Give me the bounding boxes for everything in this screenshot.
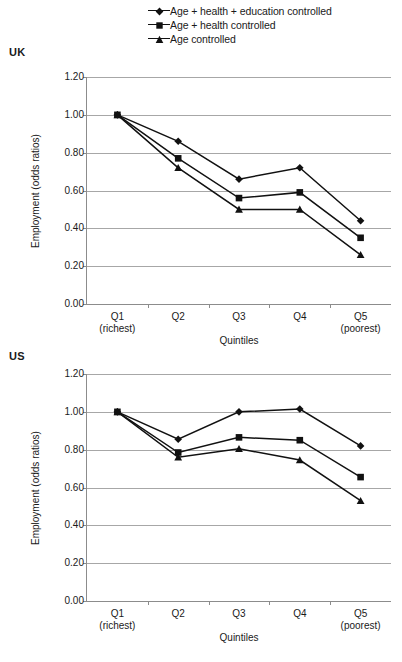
y-tick-label: 0.60 bbox=[24, 483, 84, 493]
series-line bbox=[117, 115, 360, 221]
x-tick-label: Q2 bbox=[143, 311, 213, 323]
x-tick-label: Q5(poorest) bbox=[326, 608, 396, 632]
x-tick-label: Q4 bbox=[265, 608, 335, 620]
x-tick-label: Q4 bbox=[265, 311, 335, 323]
x-tick-main: Q5 bbox=[354, 311, 367, 322]
x-tick-main: Q3 bbox=[232, 608, 245, 619]
y-tick-label: 0.00 bbox=[24, 299, 84, 309]
x-axis-title: Quintiles bbox=[87, 632, 391, 643]
x-tick-mark bbox=[209, 304, 210, 308]
square-marker bbox=[297, 437, 304, 444]
x-tick-mark bbox=[330, 304, 331, 308]
legend-item-age-health-education: Age + health + education controlled bbox=[148, 4, 398, 17]
y-tick-label: 0.80 bbox=[24, 148, 84, 158]
series-square bbox=[114, 409, 364, 481]
diamond-marker bbox=[357, 442, 365, 450]
y-tick-label: 0.40 bbox=[24, 520, 84, 530]
x-tick-label: Q5(poorest) bbox=[326, 311, 396, 335]
x-tick-main: Q2 bbox=[172, 311, 185, 322]
diamond-marker-icon bbox=[148, 5, 170, 17]
diamond-marker bbox=[235, 175, 243, 183]
square-marker bbox=[236, 434, 243, 441]
x-axis-title: Quintiles bbox=[87, 335, 391, 346]
x-tick-main: Q4 bbox=[293, 608, 306, 619]
x-tick-mark bbox=[269, 601, 270, 605]
x-tick-main: Q1 bbox=[111, 608, 124, 619]
x-tick-main: Q2 bbox=[172, 608, 185, 619]
y-tick-label: 1.20 bbox=[24, 72, 84, 82]
legend-item-age-health: Age + health controlled bbox=[148, 18, 398, 31]
x-tick-label: Q1(richest) bbox=[82, 608, 152, 632]
chart-legend: Age + health + education controlled Age … bbox=[148, 4, 398, 46]
diamond-marker bbox=[296, 405, 304, 413]
x-tick-main: Q1 bbox=[111, 311, 124, 322]
x-tick-main: Q5 bbox=[354, 608, 367, 619]
y-tick-label: 0.60 bbox=[24, 186, 84, 196]
series-triangle bbox=[114, 111, 365, 258]
series-layer bbox=[87, 77, 391, 304]
x-tick-label: Q1(richest) bbox=[82, 311, 152, 335]
x-tick-label: Q2 bbox=[143, 608, 213, 620]
square-marker-icon bbox=[148, 19, 170, 31]
x-axis-line bbox=[86, 601, 391, 602]
x-tick-sub: (richest) bbox=[82, 620, 152, 632]
plot-area-uk: 1.201.000.800.600.400.200.00Q1(richest)Q… bbox=[87, 77, 391, 304]
legend-label: Age + health controlled bbox=[170, 19, 275, 31]
x-tick-main: Q4 bbox=[293, 311, 306, 322]
legend-label: Age + health + education controlled bbox=[170, 5, 332, 17]
chart-panel-us: Employment (odds ratios) 1.201.000.800.6… bbox=[0, 357, 402, 657]
x-tick-sub: (poorest) bbox=[326, 323, 396, 335]
y-tick-label: 1.20 bbox=[24, 369, 84, 379]
square-marker bbox=[236, 195, 243, 202]
x-tick-sub: (richest) bbox=[82, 323, 152, 335]
y-tick-label: 0.20 bbox=[24, 558, 84, 568]
x-tick-mark bbox=[209, 601, 210, 605]
plot-area-us: 1.201.000.800.600.400.200.00Q1(richest)Q… bbox=[87, 374, 391, 601]
y-tick-label: 0.40 bbox=[24, 223, 84, 233]
y-tick-label: 0.00 bbox=[24, 596, 84, 606]
x-tick-mark bbox=[148, 304, 149, 308]
y-tick-label: 1.00 bbox=[24, 407, 84, 417]
square-marker bbox=[175, 155, 182, 162]
diamond-marker bbox=[174, 435, 182, 443]
series-diamond bbox=[114, 405, 365, 449]
diamond-marker bbox=[235, 408, 243, 416]
chart-panel-uk: Employment (odds ratios) 1.201.000.800.6… bbox=[0, 60, 402, 350]
y-tick-label: 0.20 bbox=[24, 261, 84, 271]
y-tick-label: 1.00 bbox=[24, 110, 84, 120]
x-tick-mark bbox=[269, 304, 270, 308]
x-tick-mark bbox=[148, 601, 149, 605]
x-tick-main: Q3 bbox=[232, 311, 245, 322]
x-tick-label: Q3 bbox=[204, 311, 274, 323]
legend-item-age: Age controlled bbox=[148, 32, 398, 45]
triangle-marker bbox=[357, 497, 365, 504]
series-line bbox=[117, 412, 360, 501]
panel-tag-uk: UK bbox=[9, 46, 26, 58]
x-tick-sub: (poorest) bbox=[326, 620, 396, 632]
series-line bbox=[117, 412, 360, 477]
series-line bbox=[117, 115, 360, 255]
triangle-marker-icon bbox=[148, 33, 170, 45]
diamond-marker bbox=[174, 138, 182, 146]
square-marker bbox=[357, 474, 364, 481]
square-marker bbox=[357, 234, 364, 241]
square-marker bbox=[297, 189, 304, 196]
x-axis-line bbox=[86, 304, 391, 305]
y-tick-label: 0.80 bbox=[24, 445, 84, 455]
x-tick-mark bbox=[330, 601, 331, 605]
x-tick-label: Q3 bbox=[204, 608, 274, 620]
legend-label: Age controlled bbox=[170, 33, 236, 45]
series-layer bbox=[87, 374, 391, 601]
